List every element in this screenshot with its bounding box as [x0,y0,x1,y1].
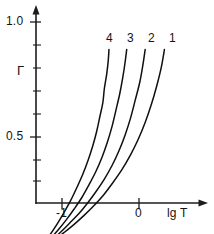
curve-label-1: 1 [169,32,176,44]
curve-label-4: 4 [106,32,113,44]
curve-label-3: 3 [127,32,134,44]
curve-2 [38,50,145,234]
curve-3 [38,50,127,234]
x-tick-label-neg-1: -1 [56,207,67,219]
y-axis-title: Γ [17,64,24,77]
x-tick-label-0: 0 [135,207,142,219]
curve-label-2: 2 [148,32,155,44]
curve-4 [38,50,109,234]
y-axis-group [33,5,40,203]
figure-container: 1.0 0.5 Γ -1 0 lg T 4 3 2 1 [0,0,214,234]
x-axis-title: lg T [167,207,188,219]
y-tick-label-1-0: 1.0 [6,15,23,27]
y-tick-label-0-5: 0.5 [6,130,23,142]
y-axis-arrow-icon [33,5,40,15]
x-axis-arrow-icon [199,200,209,207]
